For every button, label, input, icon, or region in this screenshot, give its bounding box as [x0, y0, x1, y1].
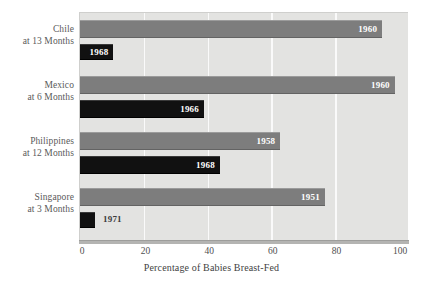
category-label-line1: Chile — [0, 24, 74, 36]
x-axis-title: Percentage of Babies Breast-Fed — [0, 262, 423, 273]
plot-area: 1960 1968 1960 1966 1958 1968 1951 1971 — [79, 12, 408, 240]
bar-singapore-1951: 1951 — [80, 188, 325, 206]
bar-chile-1968: 1968 — [80, 44, 113, 60]
category-label-line1: Mexico — [0, 80, 74, 92]
gridline-80 — [335, 13, 337, 240]
xtick-label-100: 100 — [393, 246, 407, 256]
bar-chile-1960: 1960 — [80, 20, 382, 38]
bar-value-label: 1958 — [256, 136, 280, 146]
bar-value-label: 1960 — [358, 24, 382, 34]
category-label-line1: Singapore — [0, 192, 74, 204]
bar-mexico-1960: 1960 — [80, 76, 395, 94]
category-label-line2: at 12 Months — [0, 148, 74, 160]
category-label-chile: Chile at 13 Months — [0, 24, 74, 47]
bar-singapore-1971 — [80, 212, 95, 228]
bar-philippines-1958: 1958 — [80, 132, 280, 150]
bar-mexico-1966: 1966 — [80, 100, 204, 118]
category-label-line2: at 3 Months — [0, 204, 74, 216]
category-label-philippines: Philippines at 12 Months — [0, 136, 74, 159]
bar-philippines-1968: 1968 — [80, 156, 220, 174]
category-label-mexico: Mexico at 6 Months — [0, 80, 74, 103]
xtick-label-0: 0 — [80, 246, 85, 256]
bar-value-label: 1951 — [301, 192, 325, 202]
chart-figure: Chile at 13 Months Mexico at 6 Months Ph… — [0, 0, 423, 285]
bar-value-label: 1960 — [371, 80, 395, 90]
category-label-line2: at 13 Months — [0, 36, 74, 48]
xtick-label-80: 80 — [332, 246, 342, 256]
bar-value-label: 1968 — [90, 47, 114, 57]
x-axis-line — [79, 240, 409, 244]
xtick-label-40: 40 — [204, 246, 214, 256]
bar-value-label-singapore-1971: 1971 — [103, 214, 122, 224]
category-label-line1: Philippines — [0, 136, 74, 148]
bar-value-label: 1966 — [180, 104, 204, 114]
category-label-singapore: Singapore at 3 Months — [0, 192, 74, 215]
category-label-line2: at 6 Months — [0, 92, 74, 104]
xtick-label-20: 20 — [141, 246, 151, 256]
bar-value-label: 1968 — [196, 160, 220, 170]
xtick-label-60: 60 — [268, 246, 278, 256]
